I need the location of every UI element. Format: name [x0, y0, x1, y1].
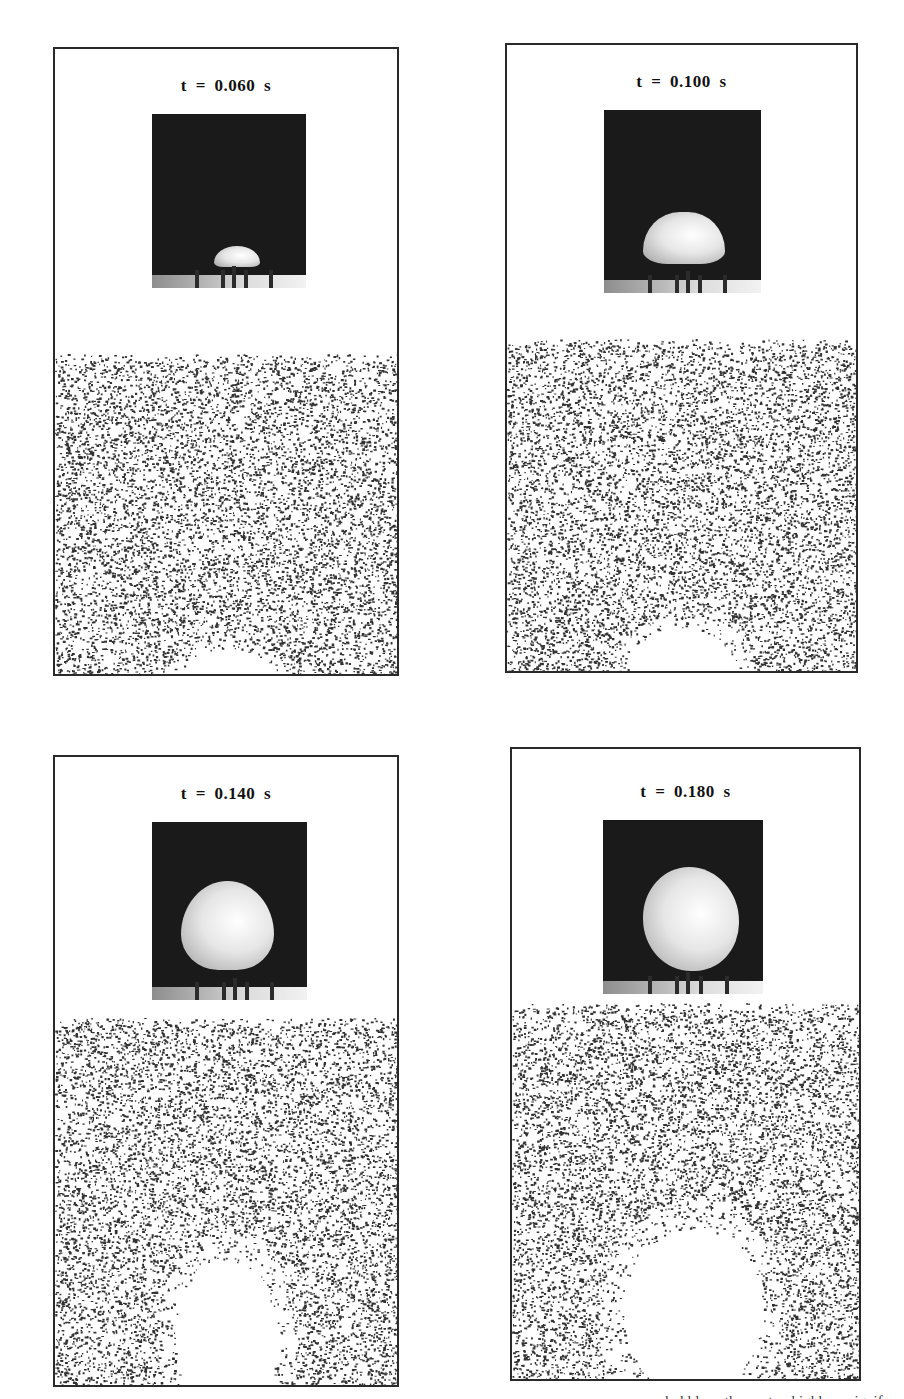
support-rod [195, 270, 199, 288]
simulation-particle-field [512, 1003, 859, 1379]
nozzle-base-strip [603, 981, 763, 994]
simulation-particle-field [55, 1018, 397, 1385]
caption-text-cut-off: ... bubble ... the ... at ... highly ...… [0, 1388, 904, 1399]
support-rod [233, 978, 237, 1000]
bubble-image [214, 246, 260, 267]
support-rod [221, 270, 225, 288]
panel-t-0140: t = 0.140 s [53, 755, 399, 1387]
support-rod [232, 266, 236, 288]
support-rod [195, 982, 199, 1000]
experimental-photo [603, 820, 763, 994]
support-rod [245, 982, 249, 1000]
support-rod [725, 976, 729, 994]
support-rod [244, 270, 248, 288]
simulation-particle-field [55, 354, 397, 674]
experimental-photo [152, 822, 307, 1000]
support-rod [648, 275, 652, 293]
panel-t-0060: t = 0.060 s [53, 47, 399, 676]
support-rod [270, 982, 274, 1000]
support-rod [675, 275, 679, 293]
panel-title: t = 0.060 s [55, 76, 397, 96]
support-rod [269, 270, 273, 288]
panel-title: t = 0.180 s [512, 782, 859, 802]
bubble-image [181, 881, 274, 970]
simulation-particle-field [507, 339, 856, 671]
support-rod [698, 275, 702, 293]
nozzle-base-strip [152, 987, 307, 1000]
support-rod [686, 972, 690, 994]
experimental-photo [152, 114, 306, 288]
support-rod [686, 271, 690, 293]
panel-title: t = 0.140 s [55, 784, 397, 804]
panel-title: t = 0.100 s [507, 72, 856, 92]
bubble-image [643, 212, 725, 263]
panel-t-0180: t = 0.180 s [510, 747, 861, 1381]
nozzle-base-strip [152, 275, 306, 288]
support-rod [222, 982, 226, 1000]
support-rod [675, 976, 679, 994]
panel-t-0100: t = 0.100 s [505, 43, 858, 673]
support-rod [699, 976, 703, 994]
support-rod [648, 976, 652, 994]
experimental-photo [604, 110, 761, 293]
support-rod [723, 275, 727, 293]
bubble-image [643, 867, 739, 971]
nozzle-base-strip [604, 280, 761, 293]
